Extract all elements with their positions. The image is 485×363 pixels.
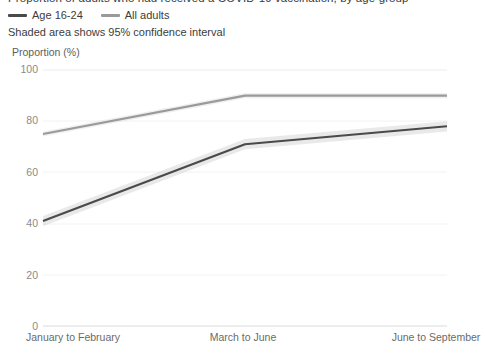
- plot-area: [0, 0, 485, 363]
- x-tick-label-june-to-september: June to September: [390, 331, 482, 344]
- confidence-bands: [43, 93, 447, 226]
- ci-band-age-16-24: [43, 121, 447, 226]
- gridlines: [43, 70, 447, 275]
- x-tick-label-january-to-february: January to February: [14, 331, 132, 344]
- x-tick-label-march-to-june: March to June: [184, 331, 302, 344]
- chart-screenshot: Proportion of adults who had received a …: [0, 0, 485, 363]
